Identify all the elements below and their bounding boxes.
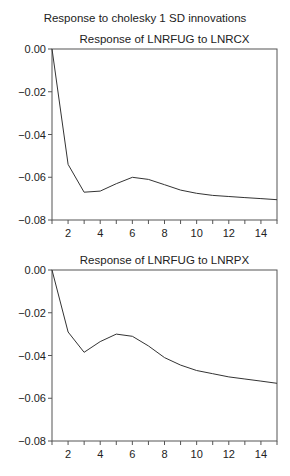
plot-frame xyxy=(52,270,277,441)
x-tick-label: 12 xyxy=(223,227,235,239)
x-tick-label: 6 xyxy=(129,448,135,460)
x-tick-label: 12 xyxy=(223,448,235,460)
y-tick-label: −0.06 xyxy=(18,171,46,183)
response-line xyxy=(52,49,277,200)
x-tick-label: 4 xyxy=(97,448,103,460)
x-tick-label: 10 xyxy=(191,227,203,239)
x-tick-label: 10 xyxy=(191,448,203,460)
y-tick-label: −0.06 xyxy=(18,392,46,404)
y-tick-label: −0.08 xyxy=(18,214,46,226)
plots-canvas: 0.00−0.02−0.04−0.06−0.0824681012140.00−0… xyxy=(0,0,290,476)
y-tick-label: −0.08 xyxy=(18,435,46,447)
x-tick-label: 8 xyxy=(161,227,167,239)
y-tick-label: 0.00 xyxy=(25,43,46,55)
x-tick-label: 4 xyxy=(97,227,103,239)
x-tick-label: 2 xyxy=(65,227,71,239)
y-tick-label: −0.04 xyxy=(18,350,46,362)
y-tick-label: −0.02 xyxy=(18,307,46,319)
response-line xyxy=(52,270,277,383)
y-tick-label: −0.02 xyxy=(18,86,46,98)
x-tick-label: 2 xyxy=(65,448,71,460)
x-tick-label: 14 xyxy=(255,448,267,460)
x-tick-label: 6 xyxy=(129,227,135,239)
plot-frame xyxy=(52,49,277,220)
y-tick-label: −0.04 xyxy=(18,129,46,141)
x-tick-label: 8 xyxy=(161,448,167,460)
x-tick-label: 14 xyxy=(255,227,267,239)
y-tick-label: 0.00 xyxy=(25,264,46,276)
